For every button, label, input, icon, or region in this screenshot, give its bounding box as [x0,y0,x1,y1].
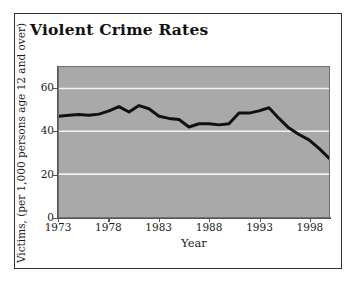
figure-root: Violent Crime Rates Victims, (per 1,000 … [0,0,356,282]
y-tick-label-group: 0204060 [32,0,54,282]
x-tick-label: 1993 [246,221,273,233]
y-tick-label: 20 [32,168,54,180]
plot-svg [59,67,329,217]
y-tick-label: 60 [32,81,54,93]
x-tick-label: 1998 [297,221,324,233]
gridline-group [59,88,329,174]
y-tick-label: 40 [32,124,54,136]
page-title: Violent Crime Rates [30,20,208,39]
x-tick-label: 1983 [145,221,172,233]
x-tick-label: 1988 [196,221,223,233]
x-tick-label: 1973 [45,221,72,233]
x-tick-label: 1978 [95,221,122,233]
x-axis-title: Year [181,236,207,250]
y-axis-title: Victims, (per 1,000 persons age 12 and o… [15,23,27,263]
plot-area [58,66,330,218]
